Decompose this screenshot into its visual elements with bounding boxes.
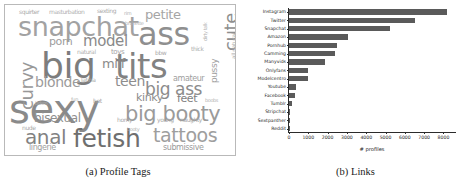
y-axis-label: Youtube — [268, 84, 286, 89]
x-axis-title: # profiles — [288, 146, 456, 152]
bar — [289, 9, 447, 14]
wordcloud-word: milf — [102, 58, 125, 70]
wordcloud-word: submissive — [163, 144, 204, 151]
y-axis-label: Reddit — [271, 126, 286, 131]
wordcloud-word: thick — [191, 46, 204, 52]
wordcloud-word: brunette — [125, 21, 143, 26]
x-axis-tick — [386, 132, 387, 134]
wordcloud-word: natural — [77, 49, 96, 55]
x-axis-tick — [347, 132, 348, 134]
bar — [289, 84, 296, 89]
wordcloud-word: naughty — [180, 117, 202, 123]
wordcloud-word: bdsm — [35, 101, 47, 106]
x-axis-tick — [424, 132, 425, 134]
wordcloud-word: young — [157, 117, 174, 123]
wordcloud-word: feet — [177, 94, 197, 104]
x-axis-tick-label: 3000 — [341, 135, 353, 140]
links-bar-chart: InstagramTwitterSnapchatAmazonPornhubCam… — [238, 0, 473, 158]
bar-row: Pornhub — [289, 41, 456, 49]
wordcloud-word: latina — [81, 77, 95, 83]
wordcloud-word: dirty talk — [203, 23, 208, 41]
bar — [289, 101, 292, 106]
wordcloud-word: horny — [117, 117, 132, 123]
wordcloud-word: booty — [127, 127, 139, 132]
bar-row: Instagram — [289, 8, 456, 16]
x-axis-tick — [366, 132, 367, 134]
bar-row: Manyvids — [289, 58, 456, 66]
caption-panel-b: (b) Links — [238, 166, 473, 177]
y-axis-label: Onlyfans — [266, 68, 286, 73]
y-axis-label: Snapchat — [264, 26, 286, 31]
wordcloud-word: boobs — [205, 98, 218, 103]
bar-row: Stripchat — [289, 108, 456, 116]
bar-row: Tumblr — [289, 100, 456, 108]
x-axis-tick — [443, 132, 444, 134]
x-axis-tick-label: 8000 — [438, 135, 450, 140]
y-axis-label: Camming — [264, 51, 286, 56]
y-axis-label: Pornhub — [267, 43, 286, 48]
panel-profile-tags: sexybigtitsasssnapchatfetishbig bootytat… — [2, 0, 238, 158]
x-axis-tick — [308, 132, 309, 134]
bar-row: Snapchat — [289, 25, 456, 33]
x-axis-tick-label: 1000 — [302, 135, 314, 140]
y-axis-label: Instagram — [263, 9, 286, 14]
bar — [289, 59, 325, 64]
x-axis-tick-label: 7000 — [418, 135, 430, 140]
wordcloud-word: teen — [115, 75, 145, 88]
bar-row: Modelcentro — [289, 75, 456, 83]
y-axis-label: Sextpanther — [258, 118, 286, 123]
panel-links: InstagramTwitterSnapchatAmazonPornhubCam… — [238, 0, 473, 158]
wordcloud-word: bisexual — [34, 113, 81, 124]
bar — [289, 26, 390, 31]
bar — [289, 118, 290, 123]
wordcloud-word: tattoos — [153, 127, 217, 144]
x-axis-tick-label: 2000 — [322, 135, 334, 140]
bar — [289, 93, 295, 98]
bar-row: Facebook — [289, 91, 456, 99]
bar — [289, 68, 308, 73]
wordcloud-word: fun — [71, 97, 78, 102]
y-axis-label: Twitter — [271, 18, 286, 23]
wordcloud-word: curvy — [19, 62, 36, 110]
x-axis-tick-label: 0 — [288, 135, 291, 140]
bar-row: Reddit — [289, 125, 456, 133]
wordcloud-word: lingerie — [29, 144, 56, 151]
wordcloud-word: squirter — [19, 9, 39, 15]
wordcloud-word: pussy — [210, 59, 218, 83]
bar — [289, 109, 290, 114]
plot-area: InstagramTwitterSnapchatAmazonPornhubCam… — [288, 8, 456, 133]
x-axis-tick — [289, 132, 290, 134]
x-axis-tick — [328, 132, 329, 134]
x-axis-tick-label: 5000 — [380, 135, 392, 140]
figure-container: sexybigtitsasssnapchatfetishbig bootytat… — [0, 0, 473, 192]
wordcloud-word: blonde — [35, 76, 80, 89]
wordcloud-word: sexting — [97, 8, 116, 14]
bar-row: Youtube — [289, 83, 456, 91]
y-axis-label: Facebook — [264, 93, 286, 98]
wordcloud-word: bbw — [155, 50, 166, 56]
wordcloud-word: hot — [93, 98, 102, 104]
y-axis-label: Stripchat — [265, 109, 286, 114]
wordcloud-word: petite — [145, 9, 181, 21]
wordcloud-word: all natural — [231, 33, 236, 59]
x-axis-tick-label: 4000 — [360, 135, 372, 140]
bar-row: Twitter — [289, 16, 456, 24]
caption-panel-a: (a) Profile Tags — [0, 166, 236, 177]
wordcloud-word: porn — [49, 37, 72, 47]
wordcloud-word: rim — [124, 11, 131, 16]
y-axis-label: Amazon — [267, 34, 286, 39]
bar — [289, 43, 337, 48]
bar — [289, 51, 335, 56]
bar — [289, 18, 415, 23]
bar-row: Camming — [289, 50, 456, 58]
bar-row: Amazon — [289, 33, 456, 41]
wordcloud-word: masturbation — [49, 9, 84, 15]
wordcloud-word: nude — [22, 125, 36, 131]
bar-row: Onlyfans — [289, 66, 456, 74]
wordcloud-word: ass — [138, 20, 190, 49]
wordcloud-word: model — [83, 35, 128, 49]
bar — [289, 34, 348, 39]
bar-row: Sextpanther — [289, 116, 456, 124]
x-axis-tick — [405, 132, 406, 134]
y-axis-label: Manyvids — [264, 59, 286, 64]
